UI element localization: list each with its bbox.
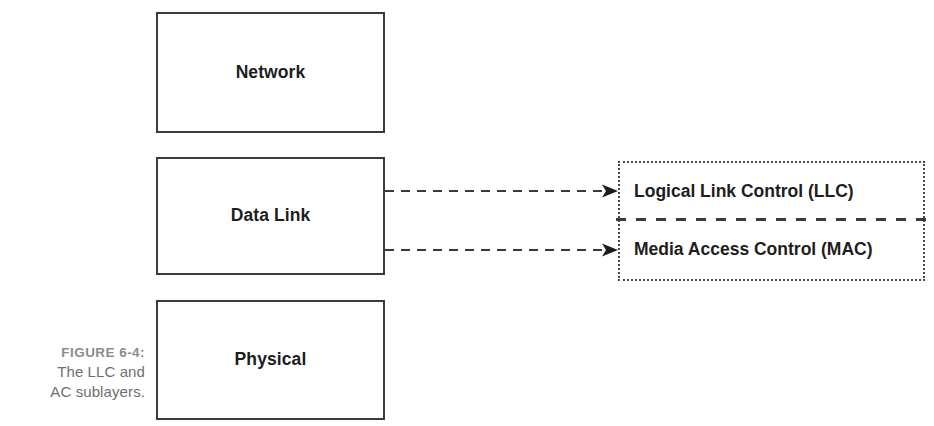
- sublayer-panel: Logical Link Control (LLC) Media Access …: [618, 161, 925, 281]
- figure-caption: FIGURE 6-4: The LLC and AC sublayers.: [0, 344, 145, 401]
- figure-caption-number: FIGURE 6-4:: [0, 344, 145, 362]
- layer-box-network: Network: [156, 12, 385, 133]
- sublayer-row-llc: Logical Link Control (LLC): [620, 163, 923, 221]
- figure-caption-line-1: The LLC and: [0, 362, 145, 382]
- layer-label-data-link: Data Link: [231, 207, 311, 225]
- sublayer-label-mac: Media Access Control (MAC): [620, 241, 873, 259]
- figure-caption-line-2: AC sublayers.: [0, 382, 145, 402]
- arrow-data-link-to-llc: [384, 181, 620, 201]
- arrow-data-link-to-mac: [384, 240, 620, 260]
- sublayer-row-mac: Media Access Control (MAC): [620, 221, 923, 279]
- layer-box-data-link: Data Link: [156, 157, 385, 275]
- figure-diagram: Network Data Link Physical Logical Link …: [0, 0, 934, 426]
- layer-box-physical: Physical: [156, 300, 385, 420]
- sublayer-divider: [616, 218, 927, 221]
- layer-label-physical: Physical: [235, 351, 307, 369]
- layer-label-network: Network: [236, 64, 306, 82]
- sublayer-label-llc: Logical Link Control (LLC): [620, 183, 854, 201]
